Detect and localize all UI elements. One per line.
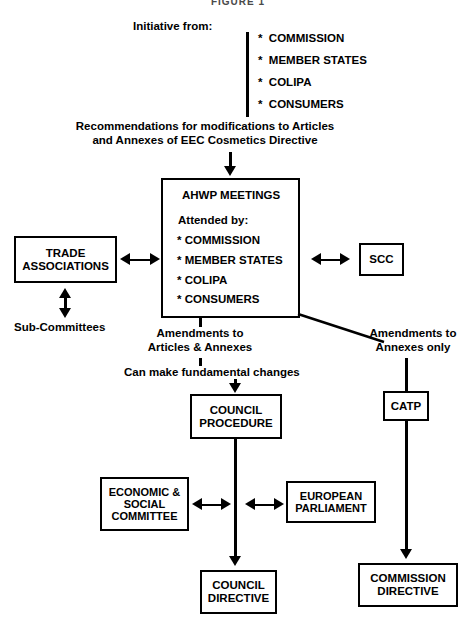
initiative-source-commission: * COMMISSION: [258, 32, 344, 46]
economic-social-committee-box[interactable]: ECONOMIC & SOCIAL COMMITTEE: [100, 477, 189, 531]
catp-label: CATP: [391, 400, 421, 413]
ahwp-to-amendments-stub: [199, 318, 202, 327]
council-spine-arrowhead: [229, 556, 241, 566]
european-parliament-box[interactable]: EUROPEAN PARLIAMENT: [286, 481, 376, 523]
amendments-articles-annexes-label: Amendments to Articles & Annexes: [140, 327, 260, 354]
ahwp-title: AHWP MEETINGS: [182, 189, 298, 202]
trade-associations-box[interactable]: TRADE ASSOCIATIONS: [14, 236, 117, 283]
amendments-annexes-only-label: Amendments to Annexes only: [352, 327, 474, 354]
ahwp-attendee-commission: * COMMISSION: [177, 234, 298, 247]
flowchart-canvas: FIGURE 1 Initiative from: * COMMISSION *…: [0, 0, 476, 623]
catp-box[interactable]: CATP: [383, 391, 429, 421]
scc-label: SCC: [369, 253, 393, 266]
ahwp-scc-line: [320, 259, 342, 262]
ahwp-meetings-box[interactable]: AHWP MEETINGS Attended by: * COMMISSION …: [161, 178, 300, 318]
fundamental-to-council-arrowhead: [229, 383, 241, 393]
council-directive-label: COUNCIL DIRECTIVE: [202, 579, 275, 605]
sub-committees-label: Sub-Committees: [14, 321, 105, 335]
recommendation-text: Recommendations for modifications to Art…: [60, 120, 350, 147]
council-directive-box[interactable]: COUNCIL DIRECTIVE: [200, 570, 277, 614]
catp-to-commission-line: [405, 421, 408, 552]
initiative-source-consumers: * CONSUMERS: [258, 98, 344, 112]
economic-social-committee-label: ECONOMIC & SOCIAL COMMITTEE: [102, 486, 187, 523]
amendments-to-fundamental-stub: [199, 358, 202, 366]
ahwp-scc-arrowhead-right: [340, 253, 350, 265]
council-procedure-box[interactable]: COUNCIL PROCEDURE: [190, 394, 282, 439]
initiative-source-member-states: * MEMBER STATES: [258, 54, 367, 68]
esc-spine-arrowhead-right: [221, 498, 231, 510]
trade-associations-label: TRADE ASSOCIATIONS: [16, 247, 115, 273]
council-procedure-label: COUNCIL PROCEDURE: [192, 404, 280, 430]
ahwp-attendee-member-states: * MEMBER STATES: [177, 254, 298, 267]
european-parliament-label: EUROPEAN PARLIAMENT: [288, 490, 374, 515]
spine-ep-arrowhead-right: [274, 498, 284, 510]
trade-sub-arrowhead-down: [59, 308, 71, 318]
initiative-source-colipa: * COLIPA: [258, 76, 311, 90]
ahwp-attendee-consumers: * CONSUMERS: [177, 293, 298, 306]
ahwp-attended-label: Attended by:: [178, 214, 298, 227]
annexes-to-catp-line: [405, 358, 408, 391]
initiative-source-rule: [246, 32, 249, 117]
scc-box[interactable]: SCC: [359, 243, 404, 276]
figure-title: FIGURE 1: [0, 0, 476, 8]
trade-ahwp-arrowhead-right: [150, 253, 160, 265]
recommendation-to-ahwp-arrowhead: [224, 166, 236, 176]
commission-directive-box[interactable]: COMMISSION DIRECTIVE: [358, 563, 458, 607]
commission-directive-label: COMMISSION DIRECTIVE: [360, 572, 456, 598]
council-spine-line: [234, 439, 237, 559]
ahwp-attendee-colipa: * COLIPA: [177, 274, 298, 287]
catp-to-commission-arrowhead: [400, 549, 412, 559]
fundamental-changes-label: Can make fundamental changes: [124, 366, 300, 380]
initiative-from-label: Initiative from:: [133, 20, 212, 34]
